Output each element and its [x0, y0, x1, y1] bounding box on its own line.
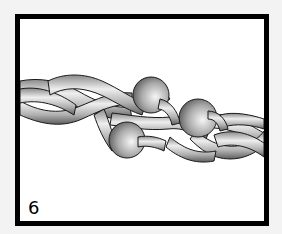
- step-number: 6: [28, 199, 39, 217]
- illustration-frame: 6: [15, 14, 269, 226]
- braid-illustration: [20, 19, 264, 221]
